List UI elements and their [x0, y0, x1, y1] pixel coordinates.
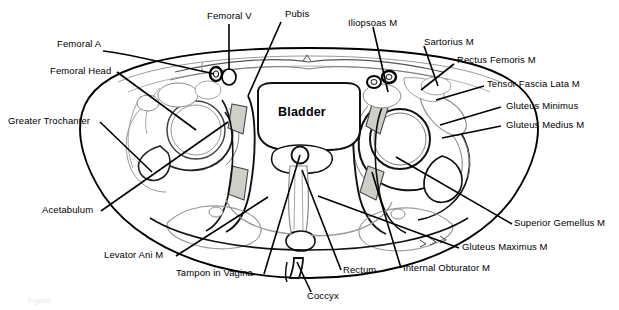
rectus-femoris-left [195, 81, 221, 99]
label-internal-obturator-m: Internal Obturator M [403, 263, 490, 273]
small-vessel-left-fossa [209, 207, 223, 217]
label-gluteus-minimus: Gluteus Minimus [506, 101, 578, 111]
label-sartorius-m: Sartorius M [424, 37, 474, 47]
label-rectus-femoris-m: Rectus Femoris M [457, 55, 536, 65]
iliopsoas-right [363, 84, 401, 108]
label-tampon-in-vagina: Tampon in Vagina [176, 268, 253, 278]
femoral-vessel-right-b-lumen [386, 75, 392, 80]
femoral-vessel-right-a-lumen [371, 80, 377, 85]
label-superior-gemellus-m: Superior Gemellus M [514, 218, 605, 228]
small-vessel-right-fossa [391, 209, 405, 219]
label-gluteus-medius-m: Gluteus Medius M [506, 120, 584, 130]
figure-caption: Figure [28, 296, 51, 305]
label-bladder: Bladder [278, 106, 326, 119]
label-greater-trochanter: Greater Trochanter [8, 116, 90, 126]
sartorius-left [137, 95, 159, 111]
label-coccyx: Coccyx [307, 291, 339, 301]
label-femoral-a: Femoral A [57, 39, 101, 49]
vagina-canal [289, 166, 309, 232]
label-acetabulum: Acetabulum [42, 205, 93, 215]
label-levator-ani-m: Levator Ani M [104, 250, 163, 260]
iliopsoas-left [158, 83, 198, 107]
femoral-vein-left-vessel [222, 69, 236, 85]
label-femoral-head: Femoral Head [50, 66, 111, 76]
label-iliopsoas-m: Iliopsoas M [348, 18, 397, 28]
label-gluteus-maximus-m: Gluteus Maximus M [462, 242, 548, 252]
label-femoral-v: Femoral V [207, 11, 252, 21]
label-tensor-fascia-lata-m: Tensor Fascia Lata M [487, 79, 580, 89]
label-rectum: Rectum [343, 265, 376, 275]
femoral-artery-left-lumen [213, 71, 218, 77]
anatomy-figure: Femoral V Pubis Iliopsoas M Sartorius M … [0, 0, 619, 310]
label-pubis: Pubis [285, 9, 309, 19]
